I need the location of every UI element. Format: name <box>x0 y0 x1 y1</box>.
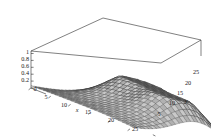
y-tick-label: 25 <box>193 68 199 75</box>
y-tick-label: 5 <box>157 110 160 117</box>
x-tick-label: 10 <box>61 101 67 108</box>
x-tickmark <box>29 88 31 90</box>
x-tick-label: 20 <box>108 116 114 123</box>
z-tick-label: 1 <box>26 48 29 55</box>
z-axis-tick-labels: 1 0.8 0.6 0.4 0.2 0 <box>21 48 36 92</box>
y-axis-ticks <box>153 135 211 137</box>
x-axis-label: x <box>75 106 79 113</box>
x-tick-label: 25 <box>132 125 138 132</box>
y-tick-label: 10 <box>169 99 175 106</box>
y-tickmark <box>153 135 156 136</box>
surface-plot-figure: 1 0.8 0.6 0.4 0.2 0 5 10 15 20 25 x 5 10… <box>0 0 211 137</box>
z-axis-ticks <box>31 54 34 89</box>
x-tick-label: 15 <box>85 108 91 115</box>
x-tick-label: 5 <box>44 93 47 100</box>
y-axis-label: y <box>184 97 188 104</box>
y-tick-label: 15 <box>177 89 183 96</box>
box-top-face <box>31 18 201 63</box>
z-tick-label-zero: 0 <box>33 85 36 92</box>
x-tickmark <box>128 129 130 131</box>
x-tickmark <box>68 104 70 106</box>
y-tick-label: 20 <box>185 79 191 86</box>
x-tickmark <box>48 96 50 98</box>
z-tick-label: 0.2 <box>21 76 29 83</box>
z-tick-label: 0.4 <box>21 69 29 76</box>
z-tick-label: 0.6 <box>21 62 29 69</box>
z-tick-label: 0.8 <box>21 55 29 62</box>
plot-canvas: 1 0.8 0.6 0.4 0.2 0 5 10 15 20 25 x 5 10… <box>0 0 211 137</box>
